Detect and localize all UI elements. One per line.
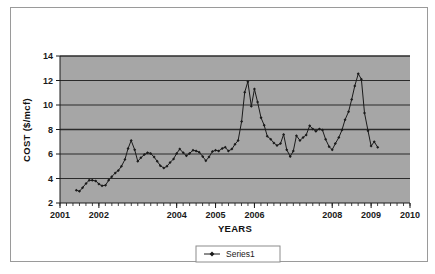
y-axis-tick-labels: 2468101214 [43, 51, 53, 208]
x-tick-label-2004: 2004 [167, 210, 187, 220]
legend-entry-label: Series1 [226, 249, 255, 259]
y-tick-label-8: 8 [48, 125, 53, 135]
y-tick-label-12: 12 [43, 76, 53, 86]
x-tick-label-2006: 2006 [244, 210, 264, 220]
y-tick-label-10: 10 [43, 100, 53, 110]
chart-legend[interactable]: Series1 [196, 246, 280, 262]
y-tick-label-6: 6 [48, 149, 53, 159]
x-tick-label-2002: 2002 [89, 210, 109, 220]
x-tick-label-2009: 2009 [361, 210, 381, 220]
y-axis-title: COST ($/mcf) [21, 98, 32, 162]
x-axis-title-group: YEARS [218, 223, 252, 234]
x-tick-label-2005: 2005 [206, 210, 226, 220]
y-axis-title-group: COST ($/mcf) [21, 98, 32, 162]
x-axis-title: YEARS [218, 223, 252, 234]
y-axis-tick-marks [56, 56, 60, 203]
y-tick-label-14: 14 [43, 51, 53, 61]
y-tick-label-2: 2 [48, 198, 53, 208]
y-tick-label-4: 4 [48, 174, 53, 184]
cost-vs-years-line-chart: 2468101214 20012002200420052006200820092… [0, 0, 435, 274]
x-tick-label-2008: 2008 [322, 210, 342, 220]
x-tick-label-2001: 2001 [50, 210, 70, 220]
x-tick-label-2010: 2010 [400, 210, 420, 220]
